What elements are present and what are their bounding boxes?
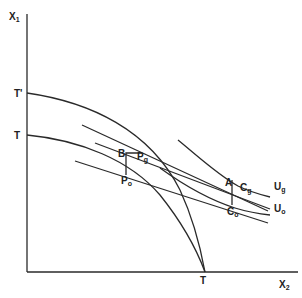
label-a: A <box>225 178 232 188</box>
x-axis-label-sub: 2 <box>286 284 290 291</box>
label-t-prime: T' <box>14 89 23 99</box>
label-u-g-sub: g <box>281 186 285 193</box>
diagram-canvas <box>0 0 302 298</box>
label-c-g-sub: g <box>247 187 251 194</box>
label-c-o-sub: o <box>234 211 238 218</box>
label-p-o-sub: o <box>128 180 132 187</box>
label-u-o-sub: o <box>281 208 285 215</box>
label-p-o-text: P <box>121 175 128 186</box>
x-axis-label-text: X <box>279 279 286 290</box>
label-u-g: Ug <box>274 182 286 193</box>
label-p-o: Po <box>121 176 132 187</box>
label-t-axis: T <box>200 276 206 286</box>
curve-t-prime <box>27 93 205 272</box>
curve-t <box>27 135 205 272</box>
x-axis-label: X2 <box>279 280 290 291</box>
label-u-o: Uo <box>274 204 286 215</box>
label-p-g: Pg <box>137 152 148 163</box>
indifference-curve-uo <box>160 168 270 215</box>
y-axis-label-text: X <box>9 11 16 22</box>
label-t-upper: T <box>14 131 20 141</box>
y-axis-label-sub: 1 <box>16 16 20 23</box>
y-axis-label: X1 <box>9 12 20 23</box>
label-c-g: Cg <box>240 183 252 194</box>
label-p-g-sub: g <box>144 156 148 163</box>
label-p-g-text: P <box>137 151 144 162</box>
label-c-o: Co <box>227 207 239 218</box>
label-b: B <box>118 149 125 159</box>
